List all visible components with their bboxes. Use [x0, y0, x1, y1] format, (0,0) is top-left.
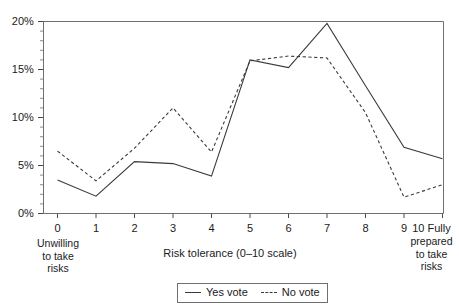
x-tick-label-8: 8: [351, 222, 381, 234]
series-line-no-vote: [58, 56, 443, 197]
x-ticks: [58, 214, 443, 219]
legend-item-yes-vote: Yes vote: [185, 286, 248, 299]
legend-swatch-solid-icon: [185, 292, 201, 293]
x-tick-label-4: 4: [197, 222, 227, 234]
x-tick-label-2: 2: [120, 222, 150, 234]
x-tick-label-0: 0: [43, 222, 73, 234]
x-tick-label-6: 6: [274, 222, 304, 234]
x-tick-label-7: 7: [312, 222, 342, 234]
x-axis-title: Risk tolerance (0–10 scale): [80, 247, 380, 259]
right-anchor-line-1: 10 Fully: [404, 222, 459, 235]
x-axis-right-anchor-caption: 10 Fully prepared to take risks: [404, 222, 459, 273]
x-tick-label-5: 5: [235, 222, 265, 234]
series-line-yes-vote: [58, 23, 443, 196]
x-tick-label-1: 1: [81, 222, 111, 234]
right-anchor-line-2: prepared: [404, 235, 459, 248]
axis-frame: [44, 22, 444, 214]
legend-label-yes-vote: Yes vote: [206, 286, 248, 299]
line-chart: 20% 15% 10% 5% 0%: [0, 0, 459, 308]
x-tick-label-3: 3: [158, 222, 188, 234]
legend-label-no-vote: No vote: [282, 286, 320, 299]
legend-item-no-vote: No vote: [261, 286, 320, 299]
chart-legend: Yes vote No vote: [177, 283, 328, 303]
left-anchor-line-3: risks: [22, 262, 94, 275]
legend-swatch-dashed-icon: [261, 292, 277, 293]
right-anchor-line-3: to take: [404, 248, 459, 261]
right-anchor-line-4: risks: [404, 260, 459, 273]
